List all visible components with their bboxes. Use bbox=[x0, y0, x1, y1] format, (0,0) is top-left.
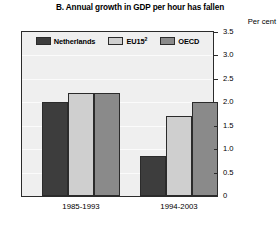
y-axis: 00.51.01.52.02.53.03.5 bbox=[214, 31, 280, 197]
y-axis-tick-label: 1.0 bbox=[223, 145, 234, 153]
gridline bbox=[22, 79, 213, 80]
legend-label-netherlands: Netherlands bbox=[54, 37, 96, 46]
legend-item-oecd[interactable]: OECD bbox=[160, 37, 199, 46]
y-axis-tick-label: 0 bbox=[223, 192, 227, 200]
y-axis-tick-label: 0.5 bbox=[223, 169, 234, 177]
y-axis-tick bbox=[214, 173, 218, 174]
y-axis-tick-label: 3.5 bbox=[223, 28, 234, 36]
y-axis-tick bbox=[214, 149, 218, 150]
legend-label-eu15: EU152 bbox=[126, 37, 147, 46]
legend-label-oecd: OECD bbox=[178, 37, 199, 46]
chart-title: B. Annual growth in GDP per hour has fal… bbox=[0, 3, 280, 12]
y-axis-tick-label: 3.0 bbox=[223, 51, 234, 59]
y-axis-tick bbox=[214, 55, 218, 56]
x-axis-label-1985-1993: 1985-1993 bbox=[62, 202, 99, 211]
bar-oecd-1985-1993 bbox=[94, 93, 120, 196]
x-axis-category-labels: 1985-19931994-2003 bbox=[21, 202, 214, 216]
bar-eu15-1994-2003 bbox=[166, 116, 192, 196]
plot-area bbox=[22, 32, 213, 196]
legend-swatch-oecd bbox=[160, 37, 175, 45]
y-axis-tick-label: 2.0 bbox=[223, 98, 234, 106]
legend-item-eu15[interactable]: EU152 bbox=[108, 37, 147, 46]
bar-netherlands-1985-1993 bbox=[42, 102, 68, 196]
bar-netherlands-1994-2003 bbox=[140, 156, 166, 196]
legend-item-netherlands[interactable]: Netherlands bbox=[36, 37, 96, 46]
y-axis-tick bbox=[214, 79, 218, 80]
y-axis-tick bbox=[214, 102, 218, 103]
plot-frame bbox=[21, 31, 214, 197]
x-axis-label-1994-2003: 1994-2003 bbox=[160, 202, 197, 211]
legend-swatch-netherlands bbox=[36, 37, 51, 45]
bar-eu15-1985-1993 bbox=[68, 93, 94, 196]
chart-legend: Netherlands EU152 OECD bbox=[21, 33, 214, 49]
y-axis-tick-label: 1.5 bbox=[223, 122, 234, 130]
y-axis-tick bbox=[214, 196, 218, 197]
figure-panel: B. Annual growth in GDP per hour has fal… bbox=[0, 0, 280, 229]
legend-swatch-eu15 bbox=[108, 37, 123, 45]
y-axis-tick bbox=[214, 126, 218, 127]
y-axis-tick-label: 2.5 bbox=[223, 75, 234, 83]
y-axis-unit-label: Per cent bbox=[248, 17, 276, 26]
gridline bbox=[22, 55, 213, 56]
y-axis-tick bbox=[214, 32, 218, 33]
